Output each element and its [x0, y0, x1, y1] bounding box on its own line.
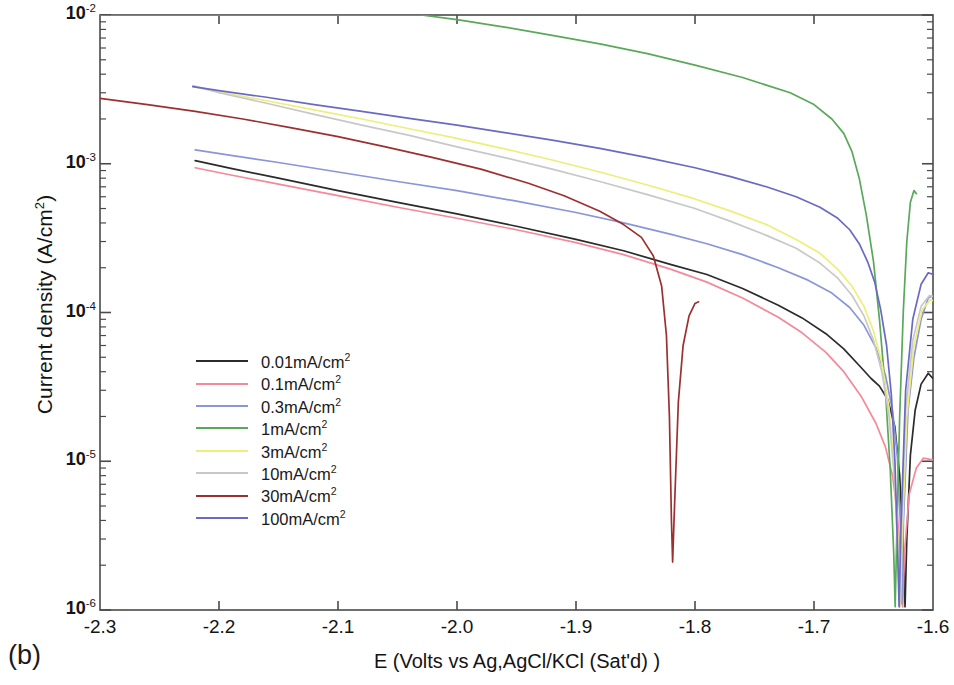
legend-item-label: 0.1mA/cm2: [261, 373, 341, 394]
legend-item-label: 10mA/cm2: [261, 463, 337, 484]
legend-item-label: 1mA/cm2: [261, 418, 327, 439]
x-axis-title: E (Volts vs Ag,AgCl/KCl (Sat'd) ): [100, 650, 934, 673]
legend-color-swatch: [196, 427, 248, 429]
x-axis-tick-label: -1.8: [679, 616, 712, 638]
legend-item[interactable]: 1mA/cm2: [196, 417, 350, 439]
data-series-line: [100, 98, 699, 562]
legend-color-swatch: [196, 517, 248, 519]
legend-item-label: 30mA/cm2: [261, 485, 337, 506]
y-axis-tick-label: 10-5: [66, 448, 96, 470]
x-axis-tick-label: -2.1: [322, 616, 355, 638]
plot-area: [0, 0, 954, 685]
legend-item[interactable]: 10mA/cm2: [196, 462, 350, 484]
legend-color-swatch: [196, 405, 248, 407]
legend: 0.01mA/cm20.1mA/cm20.3mA/cm21mA/cm23mA/c…: [196, 350, 350, 529]
legend-item[interactable]: 0.3mA/cm2: [196, 395, 350, 417]
y-axis-tick-labels: 10-210-310-410-510-6: [18, 0, 96, 685]
y-axis-tick-label: 10-3: [66, 151, 96, 173]
legend-color-swatch: [196, 383, 248, 385]
legend-item-label: 0.3mA/cm2: [261, 396, 341, 417]
legend-color-swatch: [196, 360, 248, 362]
legend-color-swatch: [196, 495, 248, 497]
legend-item[interactable]: 0.1mA/cm2: [196, 372, 350, 394]
legend-color-swatch: [196, 472, 248, 474]
legend-item[interactable]: 100mA/cm2: [196, 507, 350, 529]
x-axis-tick-label: -1.6: [917, 616, 950, 638]
legend-item-label: 100mA/cm2: [261, 508, 346, 529]
legend-item[interactable]: 30mA/cm2: [196, 484, 350, 506]
x-axis-tick-label: -2.3: [84, 616, 117, 638]
panel-label: (b): [8, 640, 41, 671]
x-axis-tick-label: -2.2: [203, 616, 236, 638]
legend-item[interactable]: 3mA/cm2: [196, 440, 350, 462]
y-axis-tick-label: 10-2: [66, 2, 96, 24]
legend-item-label: 0.01mA/cm2: [261, 351, 350, 372]
x-axis-tick-label: -2.0: [441, 616, 474, 638]
legend-color-swatch: [196, 450, 248, 452]
legend-item[interactable]: 0.01mA/cm2: [196, 350, 350, 372]
figure-panel-b: Current density (A/cm2) 10-210-310-410-5…: [0, 0, 954, 685]
x-axis-tick-label: -1.7: [798, 616, 831, 638]
legend-item-label: 3mA/cm2: [261, 441, 327, 462]
y-axis-tick-label: 10-4: [66, 300, 96, 322]
x-axis-tick-labels: -2.3-2.2-2.1-2.0-1.9-1.8-1.7-1.6: [0, 616, 954, 648]
x-axis-tick-label: -1.9: [560, 616, 593, 638]
